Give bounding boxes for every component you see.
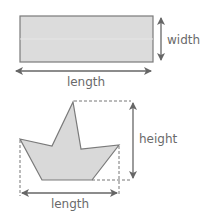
- polygon-figure: height length: [20, 101, 178, 211]
- polygon-shape: [20, 102, 119, 180]
- height-label: height: [139, 132, 178, 146]
- polygon-length-label: length: [51, 197, 89, 211]
- width-label: width: [167, 33, 200, 47]
- rectangle-length-label: length: [67, 75, 105, 89]
- rectangle-figure: width length: [16, 16, 200, 89]
- measurement-diagram: width length height length: [0, 0, 209, 221]
